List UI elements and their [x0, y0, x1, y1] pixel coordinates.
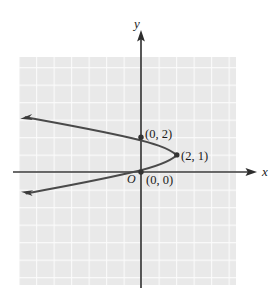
x-axis-label: x — [262, 165, 268, 178]
point-label-2-1: (2, 1) — [181, 150, 208, 163]
y-axis-label: y — [134, 17, 140, 30]
coordinate-plane-svg — [0, 0, 280, 297]
point-marker-0-0 — [138, 169, 143, 174]
point-marker-2-1 — [174, 152, 179, 157]
origin-label: O — [127, 173, 136, 185]
point-label-0-0: (0, 0) — [146, 174, 173, 187]
graph-figure: y x O (0, 2) (2, 1) (0, 0) — [0, 0, 280, 297]
point-marker-0-2 — [138, 135, 143, 140]
plot-grid-area — [19, 57, 236, 285]
point-label-0-2: (0, 2) — [145, 128, 172, 141]
